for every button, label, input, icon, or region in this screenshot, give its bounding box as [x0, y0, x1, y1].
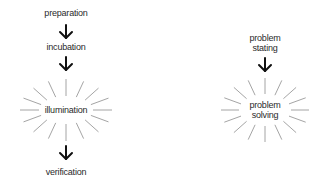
step-incubation: incubation: [46, 42, 85, 52]
diagram-canvas: [0, 0, 331, 186]
label-line: problem: [249, 100, 280, 110]
label-line: stating: [249, 43, 280, 53]
label-line: problem: [249, 33, 280, 43]
step-preparation: preparation: [44, 8, 87, 18]
step-problem-stating: problem stating: [249, 33, 280, 53]
arrow-down-icon: [259, 58, 271, 71]
step-verification: verification: [46, 167, 87, 177]
arrow-down-icon: [60, 57, 72, 70]
label-line: solving: [249, 110, 280, 120]
step-problem-solving: problem solving: [249, 100, 280, 120]
arrow-down-icon: [60, 25, 72, 38]
arrow-down-icon: [60, 146, 72, 159]
step-illumination: illumination: [45, 105, 88, 115]
